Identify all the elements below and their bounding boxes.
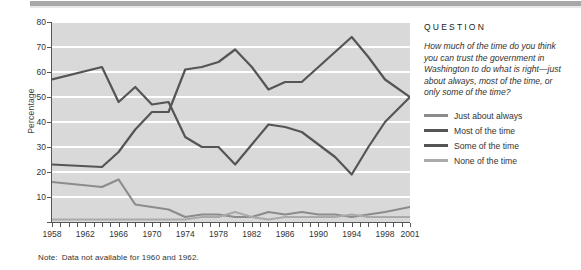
x-axis-tick-label: 1958 [43, 229, 62, 239]
y-axis-tick-label: 70 [26, 43, 46, 51]
legend-swatch-icon [424, 144, 448, 147]
x-axis-tick [94, 223, 95, 227]
legend-item[interactable]: Most of the time [424, 126, 574, 136]
legend-swatch-icon [424, 114, 448, 117]
x-axis-tick [327, 223, 328, 227]
x-axis-tick [410, 223, 411, 227]
x-axis-tick-label: 1998 [376, 229, 395, 239]
question-panel: QUESTION How much of the time do you thi… [424, 22, 574, 171]
y-axis-tick-label: 10 [26, 193, 46, 201]
x-axis-tick [52, 223, 53, 227]
x-axis-tick [268, 223, 269, 227]
x-axis-tick [302, 223, 303, 227]
series-line [52, 180, 410, 218]
legend-swatch-icon [424, 129, 448, 132]
x-axis-tick [235, 223, 236, 227]
x-axis-tick-label: 1974 [176, 229, 195, 239]
x-axis-line [51, 222, 410, 223]
y-axis-tick-label: 30 [26, 143, 46, 151]
legend-item[interactable]: None of the time [424, 156, 574, 166]
x-axis-tick [119, 223, 120, 227]
x-axis-tick [385, 223, 386, 227]
x-axis-tick [160, 223, 161, 227]
x-axis-tick [260, 223, 261, 227]
x-axis-tick [310, 223, 311, 227]
x-axis-tick-label: 1986 [276, 229, 295, 239]
y-axis-tick-label: 80 [26, 18, 46, 26]
x-axis-tick [194, 223, 195, 227]
y-axis-tick-label: 50 [26, 93, 46, 101]
x-axis-tick [185, 223, 186, 227]
legend-item[interactable]: Some of the time [424, 141, 574, 151]
trust-in-government-line-chart: Percentage 1020304050607080 Note:Data no… [0, 10, 415, 270]
x-axis-tick [219, 223, 220, 227]
x-axis-tick [77, 223, 78, 227]
x-axis-tick [69, 223, 70, 227]
x-axis-tick [318, 223, 319, 227]
x-axis-tick [144, 223, 145, 227]
y-axis-tick [47, 72, 52, 73]
x-axis-tick-label: 1982 [242, 229, 261, 239]
question-heading: QUESTION [424, 22, 574, 32]
x-axis-tick-label: 1978 [209, 229, 228, 239]
chart-legend: Just about alwaysMost of the timeSome of… [424, 111, 574, 166]
y-axis-tick [47, 47, 52, 48]
x-axis-tick [110, 223, 111, 227]
x-axis-tick-label: 1966 [109, 229, 128, 239]
x-axis-tick [402, 223, 403, 227]
x-axis-tick [102, 223, 103, 227]
note-text: Data not available for 1960 and 1962. [62, 253, 199, 262]
chart-note: Note:Data not available for 1960 and 196… [38, 253, 199, 262]
y-axis-tick-label: 20 [26, 168, 46, 176]
series-line [52, 37, 410, 167]
legend-item-label: Just about always [454, 111, 522, 121]
legend-item[interactable]: Just about always [424, 111, 574, 121]
x-axis-tick [85, 223, 86, 227]
x-axis-tick-label: 1962 [76, 229, 95, 239]
x-axis-tick [60, 223, 61, 227]
x-axis-tick [393, 223, 394, 227]
x-axis-tick [152, 223, 153, 227]
y-axis-tick [47, 197, 52, 198]
x-axis-tick [243, 223, 244, 227]
x-axis-tick [252, 223, 253, 227]
legend-item-label: Most of the time [454, 126, 515, 136]
y-axis-tick-label: 40 [26, 118, 46, 126]
x-axis-tick [360, 223, 361, 227]
x-axis-tick [343, 223, 344, 227]
y-axis-tick [47, 122, 52, 123]
x-axis-tick [368, 223, 369, 227]
legend-item-label: None of the time [454, 156, 517, 166]
question-text: How much of the time do you think you ca… [424, 41, 570, 99]
x-axis-tick [227, 223, 228, 227]
y-axis-tick [47, 97, 52, 98]
x-axis-tick [202, 223, 203, 227]
x-axis-tick [169, 223, 170, 227]
x-axis-tick [352, 223, 353, 227]
x-axis-tick [285, 223, 286, 227]
note-label: Note: [38, 253, 58, 262]
legend-swatch-icon [424, 159, 448, 162]
x-axis-tick [277, 223, 278, 227]
x-axis-tick [293, 223, 294, 227]
x-axis-tick [210, 223, 211, 227]
x-axis-tick [127, 223, 128, 227]
x-axis-tick [135, 223, 136, 227]
x-axis-tick [335, 223, 336, 227]
y-axis-tick [47, 172, 52, 173]
x-axis-tick-label: 2001 [401, 229, 420, 239]
series-line [52, 67, 410, 175]
x-axis-tick-label: 1990 [309, 229, 328, 239]
x-axis-tick [177, 223, 178, 227]
y-axis-tick [47, 22, 52, 23]
legend-item-label: Some of the time [454, 141, 519, 151]
x-axis-tick [377, 223, 378, 227]
y-axis-tick-label: 60 [26, 68, 46, 76]
y-axis-tick [47, 147, 52, 148]
x-axis-tick-label: 1970 [142, 229, 161, 239]
series-lines [52, 22, 410, 222]
y-axis-tick-labels: 1020304050607080 [24, 22, 46, 223]
top-decorative-bar-shadow [30, 6, 581, 8]
x-axis-tick-label: 1994 [342, 229, 361, 239]
